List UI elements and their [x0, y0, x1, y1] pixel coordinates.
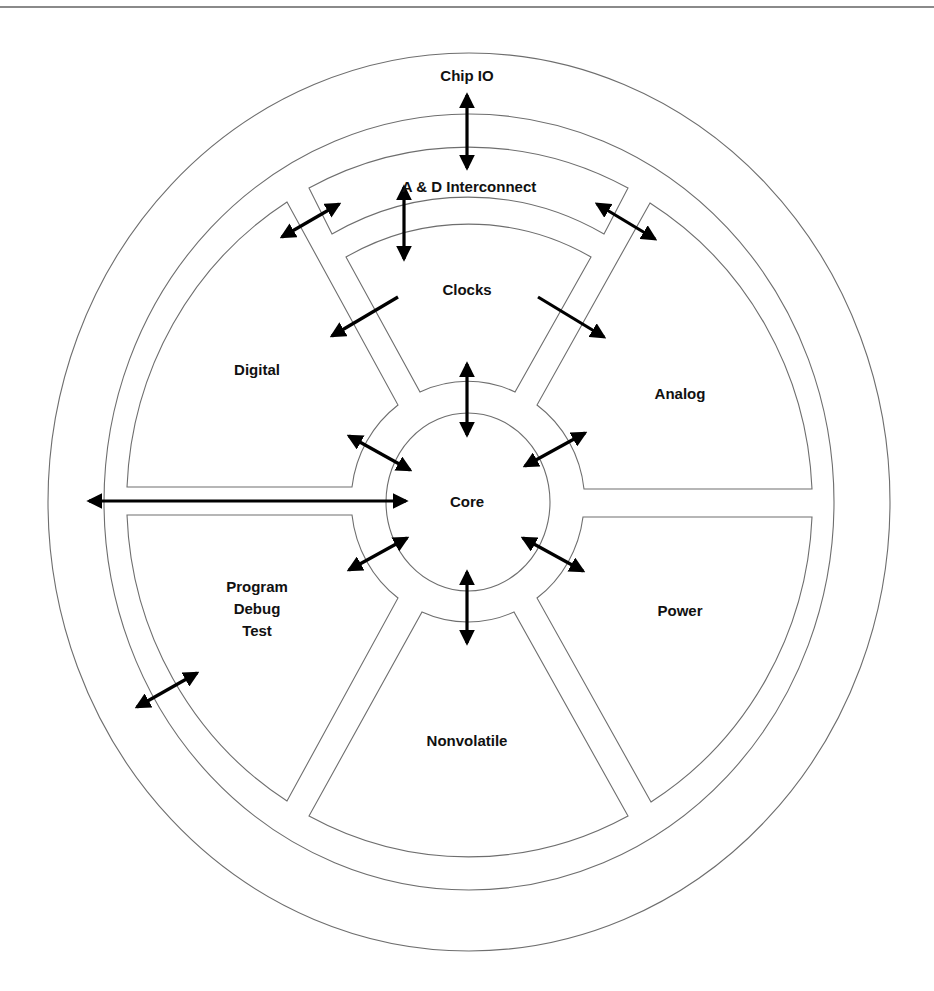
power-label: Power — [657, 602, 702, 619]
program-label: Program — [226, 578, 288, 595]
clocks-label: Clocks — [442, 281, 491, 298]
interconnect-label: A & D Interconnect — [402, 178, 536, 195]
analog-block — [537, 203, 812, 489]
chip-io-label: Chip IO — [440, 67, 494, 84]
core-label: Core — [450, 493, 484, 510]
digital-label: Digital — [234, 361, 280, 378]
digital-block — [127, 202, 398, 487]
debug-label: Debug — [234, 600, 281, 617]
soc-architecture-diagram: Chip IO A & D Interconnect Clocks Digita… — [0, 0, 934, 991]
analog-label: Analog — [655, 385, 706, 402]
test-label: Test — [242, 622, 272, 639]
nonvolatile-label: Nonvolatile — [427, 732, 508, 749]
